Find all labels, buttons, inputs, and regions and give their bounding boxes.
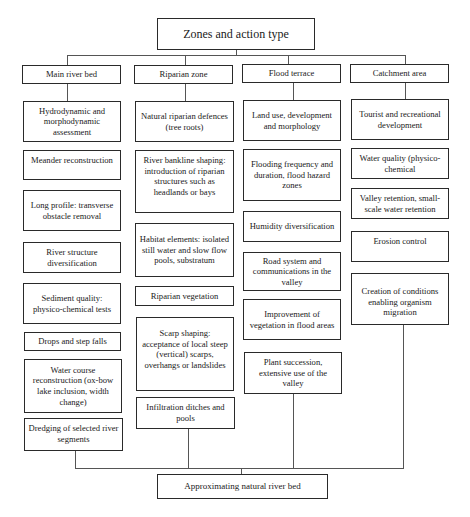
action-label: Habitat elements: isolated still water a… [139,234,230,266]
action-label: Infiltration ditches and pools [140,402,231,423]
action-label: Flooding frequency and duration, flood h… [247,154,337,191]
action-label: Sediment quality: physico-chemical tests [27,293,117,314]
action-box: Plant succession, extensive use of the v… [244,352,342,394]
action-label: Hydrodynamic and morphodynamic assessmen… [27,106,117,138]
action-box: River structure diversification [23,242,121,273]
action-label: Road system and communications in the va… [247,256,337,288]
action-label: Creation of conditions enabling organism… [355,278,445,318]
action-label: Erosion control [373,236,426,247]
action-label: Improvement of vegetation in flood areas [247,309,337,330]
action-box: Drops and step falls [24,332,121,351]
zone-label: Flood terrace [269,68,315,79]
action-box: Water course reconstruction (ox-bow lake… [24,359,122,413]
connector [67,84,68,101]
action-label: Long profile: transverse obstacle remova… [27,200,117,221]
action-box: Land use, development and morphology [243,100,341,141]
action-label: Valley retention, small-scale water rete… [355,193,445,214]
action-label: Meander reconstruction [31,155,113,166]
action-label: Drops and step falls [38,336,107,347]
action-box: Long profile: transverse obstacle remova… [23,190,121,231]
zone-label: Main river bed [46,69,97,80]
action-label: River bankline shaping: introduction of … [139,155,230,197]
action-box: River bankline shaping: introduction of … [135,150,234,213]
action-label: Natural riparian defences (tree roots) [139,111,230,132]
action-box: Hydrodynamic and morphodynamic assessmen… [23,101,121,142]
action-label: Humidity diversification [250,221,335,232]
zone-label: Catchment area [373,68,427,79]
action-box: Habitat elements: isolated still water a… [135,223,234,277]
action-box: Meander reconstruction [23,150,121,180]
action-label: Tourist and recreational development [355,109,445,130]
action-box: Tourist and recreational development [351,99,449,140]
diagram-title-box: Zones and action type [157,18,315,50]
action-label: Scarp shaping: acceptance of local steep… [140,322,230,370]
action-box: Sediment quality: physico-chemical tests [23,283,121,324]
action-box: Humidity diversification [243,211,341,242]
action-label: Plant succession, extensive use of the v… [248,357,338,389]
action-box: Improvement of vegetation in flood areas [243,299,341,340]
zone-header-flood-terrace: Flood terrace [242,64,341,83]
action-box: Infiltration ditches and pools [136,397,235,429]
zone-header-riparian-zone: Riparian zone [134,65,233,84]
zone-header-catchment-area: Catchment area [350,64,449,83]
connector [67,55,406,56]
action-box: Water quality (physico-chemical [351,148,449,179]
action-label: Water quality (physico-chemical [355,153,445,174]
action-label: Land use, development and morphology [247,110,337,131]
action-box: Erosion control [351,231,449,262]
connector [185,84,186,101]
action-box: Creation of conditions enabling organism… [351,273,449,325]
connector [67,55,68,65]
zone-label: Riparian zone [160,69,208,80]
action-box: Road system and communications in the va… [243,252,341,291]
connector [293,83,294,100]
connector [403,325,404,468]
diagram-title: Zones and action type [183,27,289,41]
connector [185,55,186,65]
action-box: Riparian vegetation [135,286,234,306]
outcome-box: Approximating natural river bed [157,474,328,499]
connector [75,468,404,469]
action-box: Valley retention, small-scale water rete… [351,188,449,219]
connector [75,451,76,469]
action-box: Natural riparian defences (tree roots) [135,101,234,142]
action-box: Dredging of selected river segments [24,418,123,451]
action-label: Water course reconstruction (ox-bow lake… [28,365,118,407]
outcome-label: Approximating natural river bed [184,481,301,492]
connector [188,429,189,469]
zone-header-main-river-bed: Main river bed [22,65,121,84]
action-box: Scarp shaping: acceptance of local steep… [136,317,234,391]
connector [293,394,294,468]
action-box: Flooding frequency and duration, flood h… [243,149,341,201]
action-label: River structure diversification [27,247,117,268]
connector [405,83,406,99]
action-label: Riparian vegetation [151,291,219,302]
action-label: Dredging of selected river segments [28,423,119,444]
